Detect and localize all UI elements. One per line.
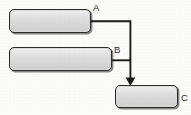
node-b-label: B xyxy=(114,45,120,55)
node-c-surface xyxy=(117,87,176,106)
diagram-canvas: A B C xyxy=(0,0,191,115)
node-b-surface xyxy=(11,49,110,69)
node-a[interactable] xyxy=(9,9,91,33)
node-c-label: C xyxy=(181,93,188,103)
node-a-label: A xyxy=(93,3,99,13)
node-b[interactable] xyxy=(9,47,112,71)
node-a-surface xyxy=(11,11,89,31)
node-c[interactable] xyxy=(115,85,178,108)
